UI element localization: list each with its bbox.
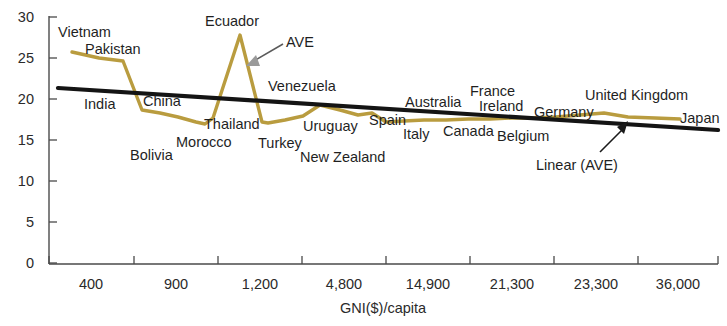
point-label-belgium: Belgium xyxy=(497,129,549,144)
point-label-thailand: Thailand xyxy=(204,117,260,132)
y-tick-label-5: 5 xyxy=(4,215,34,230)
y-tick-label-10: 10 xyxy=(4,174,34,189)
point-label-new-zealand: New Zealand xyxy=(300,150,385,165)
y-tick-label-30: 30 xyxy=(4,10,34,25)
point-label-united-kingdom: United Kingdom xyxy=(585,88,688,103)
point-label-australia: Australia xyxy=(405,95,461,110)
point-label-canada: Canada xyxy=(443,124,494,139)
chart-container: 30 25 20 15 10 5 0 400 900 1,200 4,800 1… xyxy=(0,0,727,326)
y-tick-label-15: 15 xyxy=(4,133,34,148)
x-tick-label-900: 900 xyxy=(164,277,188,292)
point-label-italy: Italy xyxy=(403,127,430,142)
point-label-morocco: Morocco xyxy=(176,135,232,150)
point-label-india: India xyxy=(84,97,115,112)
x-tick-label-21300: 21,300 xyxy=(490,277,534,292)
x-tick-label-1200: 1,200 xyxy=(242,277,278,292)
x-tick-label-400: 400 xyxy=(79,277,103,292)
x-axis-ticks xyxy=(49,256,718,264)
point-label-china: China xyxy=(143,94,181,109)
y-axis-ticks xyxy=(49,17,57,263)
point-label-france: France xyxy=(470,84,515,99)
point-label-germany: Germany xyxy=(534,105,594,120)
point-label-ecuador: Ecuador xyxy=(205,14,259,29)
y-tick-label-0: 0 xyxy=(4,256,34,271)
x-tick-label-4800: 4,800 xyxy=(326,277,362,292)
y-tick-label-25: 25 xyxy=(4,51,34,66)
x-tick-label-36000: 36,000 xyxy=(656,277,700,292)
y-tick-label-20: 20 xyxy=(4,92,34,107)
x-tick-label-23300: 23,300 xyxy=(574,277,618,292)
ave-series-annotation: AVE xyxy=(286,35,314,50)
point-label-spain: Spain xyxy=(369,113,406,128)
point-label-turkey: Turkey xyxy=(258,136,302,151)
x-tick-label-14900: 14,900 xyxy=(406,277,450,292)
x-axis-title: GNI($)/capita xyxy=(340,300,426,316)
point-label-uruguay: Uruguay xyxy=(303,119,358,134)
ave-arrow-icon xyxy=(246,44,283,66)
linear-series-annotation: Linear (AVE) xyxy=(536,158,618,173)
point-label-pakistan: Pakistan xyxy=(85,42,141,57)
point-label-vietnam: Vietnam xyxy=(58,25,111,40)
point-label-ireland: Ireland xyxy=(479,99,523,114)
point-label-bolivia: Bolivia xyxy=(130,148,173,163)
point-label-japan: Japan xyxy=(680,111,720,126)
linear-ave-arrow-icon xyxy=(600,121,628,152)
point-label-venezuela: Venezuela xyxy=(268,79,336,94)
